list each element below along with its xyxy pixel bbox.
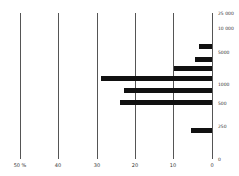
bar [101,76,212,81]
gridline [97,13,98,159]
bar [195,57,212,62]
y-tick-label: 25 000 [218,11,234,16]
bar [199,44,212,49]
bar [124,88,212,93]
y-tick-label: 500 [218,101,227,106]
y-tick-label: 10 000 [218,26,234,31]
y-tick-label: 1000 [218,82,229,87]
y-tick-label: 250 [218,124,227,129]
x-tick-label: 0 [210,162,213,168]
bar [191,128,212,133]
y-tick-label: 0 [218,157,221,162]
gridline [173,13,174,159]
x-tick-label: 30 [94,162,100,168]
x-tick-label: 40 [55,162,61,168]
bar [174,66,212,71]
x-tick-label: 10 [170,162,176,168]
gridline [212,13,213,159]
horizontal-bar-chart: 50 %403020100 25 00010 00050001000500250… [0,0,239,176]
gridline [135,13,136,159]
y-tick-label: 5000 [218,50,229,55]
gridline [58,13,59,159]
x-tick-label: 20 [132,162,138,168]
bar [120,100,212,105]
x-tick-label: 50 % [14,162,27,168]
gridline [20,13,21,159]
